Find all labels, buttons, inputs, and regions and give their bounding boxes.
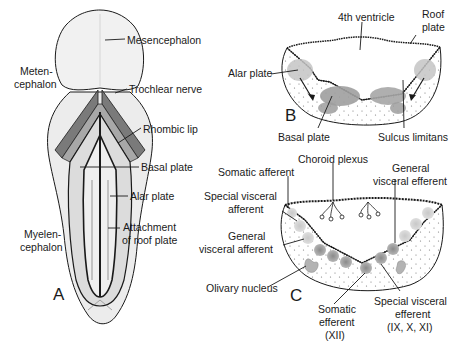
label-general-visceral-efferent-line1: General [392, 162, 429, 174]
nucleus-left-3 [340, 256, 352, 268]
label-special-visceral-afferent-line1: Special visceral [204, 190, 277, 202]
label-alar-plate-a: Alar plate [130, 190, 175, 202]
label-general-visceral-afferent-line1: General [228, 230, 265, 242]
label-general-visceral-afferent-line2: visceral afferent [199, 243, 273, 255]
panel-b-cross-section: 4th ventricle Roof plate Alar plate B Ba… [228, 8, 448, 143]
label-somatic-efferent-line2: efferent [319, 316, 354, 328]
label-rhombic-lip: Rhombic lip [143, 123, 198, 135]
label-somatic-efferent-line1: Somatic [318, 303, 356, 315]
label-myelencephalon-line1: Myelen- [24, 228, 62, 240]
nucleus-somatic-efferent [360, 262, 372, 274]
nucleus-general-visceral-efferent [387, 243, 399, 255]
label-special-visceral-afferent-line2: afferent [228, 203, 263, 215]
label-general-visceral-efferent-line2: visceral efferent [373, 175, 447, 187]
label-basal-plate-a: Basal plate [141, 161, 193, 173]
cross-section-c-body [281, 205, 443, 291]
panel-letter-c: C [290, 286, 302, 305]
nucleus-special-visceral-afferent [294, 220, 306, 232]
panel-c-cross-section: Choroid plexus Somatic afferent Special … [199, 153, 447, 341]
label-somatic-afferent: Somatic afferent [218, 166, 294, 178]
label-attachment-line1: Attachment [123, 221, 176, 233]
nucleus-somatic-afferent [287, 208, 297, 218]
basal-plate-b-right [370, 87, 406, 105]
mesencephalon-shape [55, 10, 143, 90]
label-roof-plate-line2: plate [422, 21, 445, 33]
label-special-visceral-efferent-line1: Special visceral [374, 295, 447, 307]
panel-a-dorsal-view: Mesencephalon Meten- cephalon Trochlear … [14, 10, 202, 324]
nucleus-general-visceral-afferent [302, 232, 314, 244]
label-choroid-plexus: Choroid plexus [298, 153, 368, 165]
cross-section-b-body [282, 47, 441, 125]
panel-letter-a: A [53, 285, 65, 304]
roof-plate-b [287, 37, 440, 48]
label-somatic-efferent-line3: (XII) [325, 329, 345, 341]
roof-plate-c [285, 198, 442, 205]
label-sulcus-limitans: Sulcus limitans [378, 131, 448, 143]
alar-plate-b-left [287, 59, 313, 81]
label-special-visceral-efferent-line2: efferent [395, 308, 430, 320]
label-attachment-line2: of roof plate [122, 234, 178, 246]
choroid-plexus-tufts [320, 202, 380, 221]
label-metencephalon-line2: cephalon [14, 78, 57, 90]
label-alar-plate-b: Alar plate [228, 67, 273, 79]
alar-plate-b-right [414, 59, 436, 81]
label-special-visceral-efferent-line3: (IX, X, XI) [387, 321, 433, 333]
label-metencephalon-line1: Meten- [20, 65, 53, 77]
label-myelencephalon-line2: cephalon [20, 241, 63, 253]
label-olivary-nucleus: Olivary nucleus [206, 282, 278, 294]
label-4th-ventricle: 4th ventricle [338, 11, 395, 23]
panel-letter-b: B [285, 106, 296, 125]
label-mesencephalon: Mesencephalon [127, 34, 201, 46]
label-basal-plate-b: Basal plate [278, 131, 330, 143]
hindbrain-development-figure: Mesencephalon Meten- cephalon Trochlear … [0, 0, 461, 349]
nucleus-special-visceral-efferent [375, 252, 387, 264]
label-trochlear-nerve: Trochlear nerve [129, 83, 202, 95]
nucleus-left-2 [327, 250, 339, 262]
label-roof-plate-line1: Roof [422, 8, 444, 20]
nucleus-left-1 [314, 244, 326, 256]
